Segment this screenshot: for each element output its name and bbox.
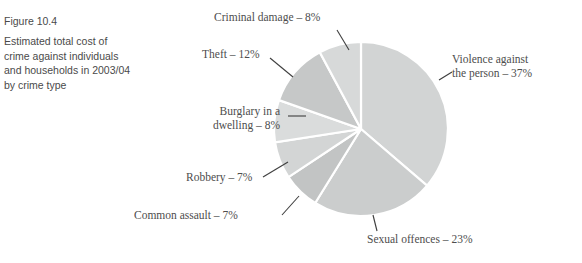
- slice-label-violence-line1: Violence against: [452, 52, 572, 66]
- slice-label-burglary-in-a-dwelling: Burglary in a dwelling – 8%: [176, 104, 280, 132]
- slice-label-burglary-line1: Burglary in a: [176, 104, 280, 118]
- slice-label-burglary-line2: dwelling – 8%: [176, 118, 280, 132]
- slice-label-criminal-damage: Criminal damage – 8%: [214, 10, 320, 24]
- slice-label-sexual-offences: Sexual offences – 23%: [367, 232, 473, 246]
- pie-chart-svg: [0, 0, 582, 263]
- figure-container: Figure 10.4 Estimated total cost of crim…: [0, 0, 582, 263]
- leader-line-common-assault: [282, 196, 299, 215]
- slice-label-robbery: Robbery – 7%: [186, 170, 252, 184]
- pie-chart: Criminal damage – 8% Theft – 12% Burglar…: [0, 0, 582, 263]
- slice-label-violence-against-the-person: Violence against the person – 37%: [452, 52, 572, 80]
- leader-line-sexual-offences: [373, 215, 377, 231]
- pie-slice-group: [274, 42, 448, 216]
- slice-label-theft: Theft – 12%: [202, 47, 259, 61]
- slice-label-common-assault: Common assault – 7%: [134, 208, 238, 222]
- leader-line-violence: [439, 72, 452, 80]
- slice-label-violence-line2: the person – 37%: [452, 66, 572, 80]
- leader-line-theft: [270, 58, 293, 77]
